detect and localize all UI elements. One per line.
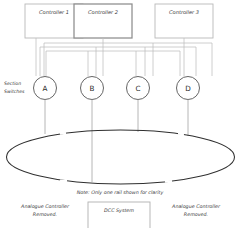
section-switch-c-label: C <box>135 84 140 93</box>
section-switch-b[interactable]: B <box>81 77 104 100</box>
dcc-system-box[interactable]: DCC System <box>88 202 150 228</box>
section-switches-label-line2: Switches <box>4 89 25 94</box>
bus-wiring <box>36 38 212 76</box>
section-switch-d[interactable]: D <box>177 77 200 100</box>
controller-box-1-label: Controller 1 <box>39 9 69 15</box>
controller-box-3[interactable]: Controller 3 <box>155 4 213 38</box>
dcc-system-label: DCC System <box>104 208 134 213</box>
section-switch-d-label: D <box>185 84 191 93</box>
footer-right-line1: Analogue Controller <box>171 204 221 209</box>
clarity-note: Note: Only one rail shown for clarity <box>77 190 164 195</box>
controller-box-2-label: Controller 2 <box>88 9 118 15</box>
diagram-canvas: Controller 1 Controller 2 Controller 3 <box>0 0 241 228</box>
controller-box-3-label: Controller 3 <box>169 9 199 15</box>
track-oval <box>7 130 235 184</box>
section-switch-a[interactable]: A <box>34 77 57 100</box>
controller-box-2[interactable]: Controller 2 <box>74 4 132 38</box>
footer-right-label: Analogue Controller Removed. <box>171 204 221 217</box>
section-switch-b-label: B <box>90 84 95 93</box>
railway-wiring-diagram: Controller 1 Controller 2 Controller 3 <box>0 0 241 228</box>
track-feeder-drops <box>45 100 188 183</box>
section-switches-label: Section Switches <box>4 81 25 94</box>
footer-left-line2: Removed. <box>33 212 57 217</box>
section-switch-c[interactable]: C <box>127 77 150 100</box>
section-switches-label-line1: Section <box>4 81 21 86</box>
section-switch-a-label: A <box>43 84 48 93</box>
footer-left-label: Analogue Controller Removed. <box>20 204 70 217</box>
footer-left-line1: Analogue Controller <box>20 204 70 209</box>
footer-right-line2: Removed. <box>184 212 208 217</box>
